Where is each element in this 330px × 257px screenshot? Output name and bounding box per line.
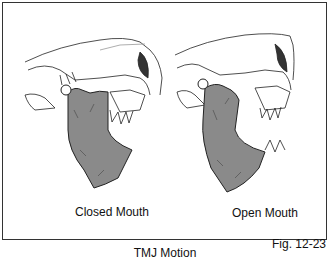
skull-closed-mouth-illustration (0, 0, 165, 200)
caption-closed-mouth: Closed Mouth (75, 205, 149, 219)
figure-number: Fig. 12-23 (272, 237, 326, 251)
caption-open-mouth: Open Mouth (232, 206, 298, 220)
skull-open-mouth-illustration (165, 0, 330, 200)
